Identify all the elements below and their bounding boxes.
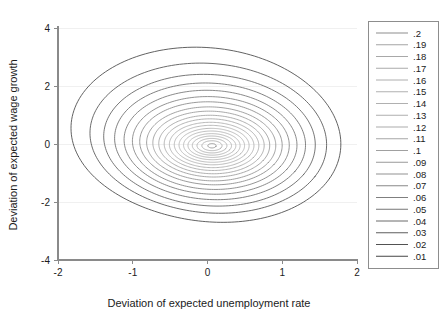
contour-line — [202, 141, 222, 151]
x-axis-ticks-group: -2-1012 — [54, 260, 361, 278]
legend-item-label: .01 — [413, 251, 426, 262]
y-axis-ticks-group: -4-2024 — [41, 23, 58, 266]
contour-line — [71, 47, 341, 222]
legend-item-label: .06 — [413, 192, 426, 203]
legend-item-label: .11 — [413, 133, 426, 144]
legend-item-label: .15 — [413, 86, 426, 97]
legend-item-label: .16 — [413, 75, 426, 86]
contour-line — [192, 136, 231, 155]
contour-plot-figure: -2-1012 -4-2024 Deviation of expected un… — [0, 0, 448, 313]
y-tick-label: -4 — [41, 255, 50, 266]
x-tick-label: -2 — [54, 267, 63, 278]
chart-canvas: -2-1012 -4-2024 Deviation of expected un… — [0, 0, 448, 313]
legend-item-label: .08 — [413, 169, 426, 180]
contour-lines-group — [71, 47, 341, 222]
legend-item-label: .04 — [413, 216, 426, 227]
contour-line — [169, 122, 254, 167]
gridlines-group — [58, 28, 357, 260]
x-tick-label: -1 — [128, 267, 137, 278]
legend-item-label: .13 — [413, 110, 426, 121]
x-tick-label: 1 — [279, 267, 285, 278]
axis-spines-group — [58, 26, 358, 260]
y-tick-label: 2 — [44, 81, 50, 92]
legend-item-label: .19 — [413, 39, 426, 50]
legend-item-label: .09 — [413, 157, 426, 168]
y-axis-title: Deviation of expected wage growth — [7, 59, 19, 230]
legend-item-label: .07 — [413, 180, 426, 191]
contour-line — [124, 90, 297, 194]
contour-line — [188, 134, 236, 158]
x-tick-label: 0 — [205, 267, 211, 278]
legend-item-label: .2 — [413, 28, 421, 39]
legend-item-label: .18 — [413, 51, 426, 62]
contour-line — [104, 74, 316, 206]
x-tick-label: 2 — [354, 267, 360, 278]
y-tick-label: -2 — [41, 197, 50, 208]
contour-line — [132, 97, 289, 190]
contour-legend: .2.19.18.17.16.15.14.13.12.11.1.09.08.07… — [369, 22, 439, 269]
legend-item-label: .05 — [413, 204, 426, 215]
y-tick-label: 0 — [44, 139, 50, 150]
legend-item-label: .12 — [413, 122, 426, 133]
legend-item-label: .02 — [413, 239, 426, 250]
legend-item-label: .14 — [413, 98, 426, 109]
y-tick-label: 4 — [44, 23, 50, 34]
legend-border — [369, 22, 439, 269]
legend-item-label: .17 — [413, 63, 426, 74]
contour-line — [115, 83, 306, 200]
x-axis-title: Deviation of expected unemployment rate — [107, 297, 310, 309]
legend-item-label: .03 — [413, 227, 426, 238]
legend-item-label: .1 — [413, 145, 421, 156]
